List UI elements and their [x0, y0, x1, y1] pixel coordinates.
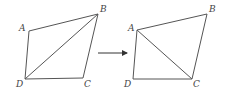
right-diagonal-ac — [137, 30, 192, 79]
left-quadrilateral: A B C D — [15, 4, 107, 89]
left-label-a: A — [18, 23, 26, 33]
right-quadrilateral: A B C D — [123, 4, 216, 89]
right-quadrilateral-outline — [133, 14, 207, 79]
right-label-a: A — [127, 23, 135, 33]
left-diagonal-db — [25, 14, 98, 79]
left-label-b: B — [99, 4, 107, 14]
left-label-d: D — [15, 79, 23, 89]
right-label-c: C — [193, 79, 200, 89]
diagram-canvas: A B C D A B C D — [0, 0, 229, 96]
right-label-d: D — [123, 79, 131, 89]
right-label-b: B — [208, 4, 216, 14]
left-label-c: C — [84, 79, 91, 89]
